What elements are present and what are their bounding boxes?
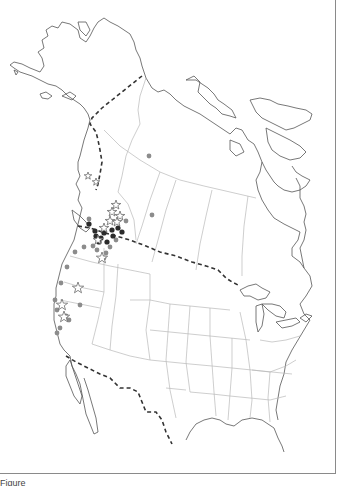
caption-text: Figure <box>0 478 26 486</box>
us-state-borders <box>60 248 300 422</box>
figure-caption-cut-off: Figure <box>0 476 339 486</box>
alaska-coastline <box>10 18 146 120</box>
canada-province-borders <box>104 78 256 276</box>
hudson-bay-coast <box>256 152 310 268</box>
labrador-coast <box>296 178 306 268</box>
grey-occurrence-points <box>53 154 155 336</box>
us-mexico-border <box>66 356 172 444</box>
arctic-islands <box>186 76 312 160</box>
pacific-coastline <box>54 120 94 434</box>
gulf-coast <box>186 418 284 452</box>
arctic-coastline <box>146 78 258 152</box>
star-occurrence-points <box>56 172 125 322</box>
alaska-canada-border <box>90 76 142 190</box>
north-america-map <box>0 0 339 474</box>
